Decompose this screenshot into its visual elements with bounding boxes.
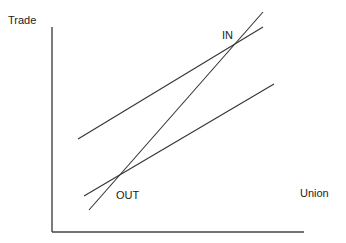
steep-line bbox=[89, 12, 263, 210]
y-axis-label: Trade bbox=[8, 14, 36, 26]
point-label-out: OUT bbox=[116, 189, 140, 201]
diagram-canvas: Trade Union IN OUT bbox=[0, 0, 346, 243]
point-label-in: IN bbox=[222, 29, 233, 41]
x-axis-label: Union bbox=[300, 187, 329, 199]
lower-line bbox=[84, 84, 274, 196]
